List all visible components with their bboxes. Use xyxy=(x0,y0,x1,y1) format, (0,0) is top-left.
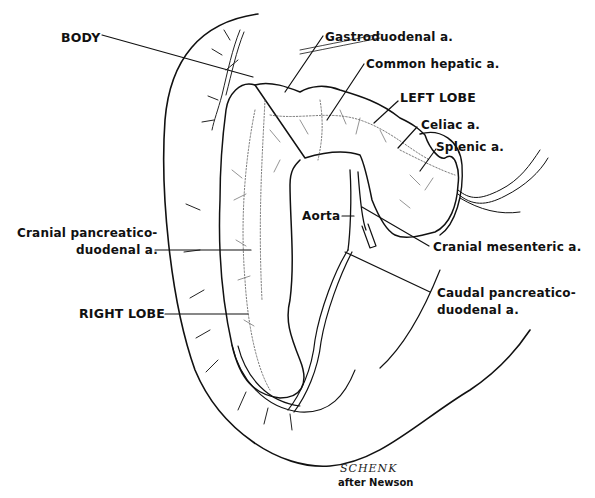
label-common-hepatic: Common hepatic a. xyxy=(366,57,500,71)
splenic-vessels xyxy=(458,150,548,213)
label-right-lobe: RIGHT LOBE xyxy=(79,307,165,321)
label-caudal-pd-line2: duodenal a. xyxy=(437,303,519,317)
label-cranial-mesenteric: Cranial mesenteric a. xyxy=(433,240,581,254)
credit-text: after Newson xyxy=(338,477,413,488)
label-splenic: Splenic a. xyxy=(436,140,504,154)
leader-celiac xyxy=(398,127,417,148)
caudal-pd-artery xyxy=(288,250,352,412)
label-celiac: Celiac a. xyxy=(421,118,480,132)
leader-caudal-pd xyxy=(345,252,430,292)
artist-signature: SCHENK xyxy=(340,462,397,475)
cranial-mesenteric-stub xyxy=(362,224,376,248)
leader-common-hepatic xyxy=(327,64,364,120)
leader-cranial-mesenteric xyxy=(362,207,429,246)
pancreas-right-lobe xyxy=(220,84,304,398)
label-caudal-pd-line1: Caudal pancreatico- xyxy=(437,286,576,300)
label-cranial-pd-line1: Cranial pancreatico- xyxy=(17,226,158,240)
duodenum-inner-wall xyxy=(380,270,440,368)
leader-gastroduodenal xyxy=(285,36,323,92)
label-cranial-pd-line2: duodenal a. xyxy=(76,243,158,257)
aorta-vessel xyxy=(348,170,366,250)
label-aorta: Aorta xyxy=(302,209,340,223)
label-gastroduodenal: Gastroduodenal a. xyxy=(325,30,453,44)
leader-splenic xyxy=(420,149,436,171)
label-body: BODY xyxy=(61,31,100,45)
label-left-lobe: LEFT LOBE xyxy=(400,91,476,105)
